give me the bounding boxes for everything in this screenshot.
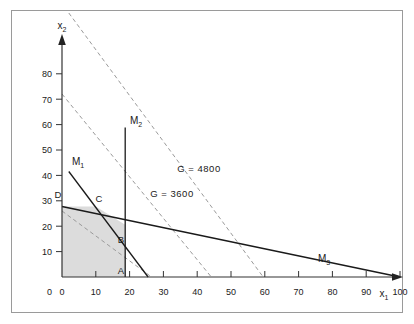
y-tick-label-0: 0 xyxy=(47,287,52,297)
point-label-A: A xyxy=(118,265,125,276)
y-tick-label-40: 40 xyxy=(42,171,52,181)
x-tick-label-50: 50 xyxy=(226,287,236,297)
y-tick-label-50: 50 xyxy=(42,145,52,155)
x-axis-title: x1 xyxy=(380,288,389,301)
x-tick-label-90: 90 xyxy=(361,287,371,297)
x-axis-title-subscript: 1 xyxy=(385,294,389,301)
series-label-M3-subscript: 3 xyxy=(326,259,330,266)
point-label-D: D xyxy=(55,189,62,200)
series-label-M1-subscript: 1 xyxy=(80,162,84,169)
x-tick-label-30: 30 xyxy=(158,287,168,297)
linear-programming-chart: 0 10 20 30 40 50 60 70 80 0 10 20 30 40 … xyxy=(0,0,414,324)
x-tick-label-40: 40 xyxy=(192,287,202,297)
series-label-M1-base: M xyxy=(72,156,80,167)
y-tick-label-20: 20 xyxy=(42,222,52,232)
y-tick-label-30: 30 xyxy=(42,196,52,206)
x-tick-label-60: 60 xyxy=(260,287,270,297)
series-label-M1: M1 xyxy=(72,156,84,169)
x-tick-label-0: 0 xyxy=(59,287,64,297)
y-tick-label-60: 60 xyxy=(42,120,52,130)
point-label-B: B xyxy=(118,234,124,245)
y-tick-label-70: 70 xyxy=(42,95,52,105)
y-axis-arrow xyxy=(58,34,66,45)
series-label-M2-base: M xyxy=(130,115,138,126)
x-tick-label-10: 10 xyxy=(91,287,101,297)
y-axis-title-subscript: 2 xyxy=(63,26,67,33)
isoprofit-label-G-3600: G = 3600 xyxy=(150,188,193,199)
isoprofit-label-G-4800: G = 4800 xyxy=(177,163,220,174)
series-label-M3: M3 xyxy=(318,253,330,266)
y-tick-label-10: 10 xyxy=(42,247,52,257)
y-axis-ticks xyxy=(56,74,62,252)
x-axis-arrow xyxy=(392,273,403,281)
x-axis-ticks xyxy=(96,271,400,277)
series-label-M3-base: M xyxy=(318,253,326,264)
series-label-M2-subscript: 2 xyxy=(138,121,142,128)
y-axis-title: x2 xyxy=(58,20,67,33)
x-tick-label-100: 100 xyxy=(392,287,407,297)
x-tick-label-80: 80 xyxy=(327,287,337,297)
point-label-C: C xyxy=(96,193,103,204)
y-tick-label-80: 80 xyxy=(42,69,52,79)
x-tick-label-70: 70 xyxy=(294,287,304,297)
series-label-M2: M2 xyxy=(130,115,142,128)
x-tick-label-20: 20 xyxy=(125,287,135,297)
figure-root: 0 10 20 30 40 50 60 70 80 0 10 20 30 40 … xyxy=(0,0,414,324)
